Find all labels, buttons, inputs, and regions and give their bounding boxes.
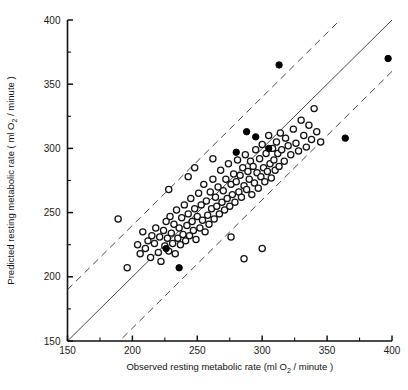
data-point-open [157,234,163,240]
y-tick-label: 250 [44,207,61,218]
data-point-open [229,192,235,198]
data-point-open [244,186,250,192]
data-point-open [318,139,324,145]
data-point-filled [385,55,391,61]
data-point-open [281,158,287,164]
data-point-open [212,194,218,200]
data-point-open [180,231,186,237]
data-point-open [210,176,216,182]
x-tick-label: 200 [124,345,141,356]
data-point-open [192,165,198,171]
y-tick-label: 350 [44,79,61,90]
y-tick-label: 400 [44,15,61,26]
data-point-open [210,156,216,162]
data-point-open [295,148,301,154]
reference-line-upper-limit-of-agreement [68,20,341,290]
data-point-open [279,147,285,153]
data-point-open [268,175,274,181]
data-point-open [257,156,263,162]
data-point-open [311,106,317,112]
y-tick-label: 200 [44,271,61,282]
data-point-open [167,213,173,219]
data-point-open [192,206,198,212]
data-point-open [249,192,255,198]
reference-lines-group [68,20,393,341]
data-point-open [290,126,296,132]
x-tick-label: 150 [59,345,76,356]
data-point-open [233,179,239,185]
data-point-filled [243,129,249,135]
data-point-filled [276,62,282,68]
data-point-open [176,225,182,231]
data-point-open [199,217,205,223]
data-point-open [288,152,294,158]
data-point-open [201,181,207,187]
data-point-open [253,147,259,153]
data-point-open [266,132,272,138]
data-point-open [205,212,211,218]
data-point-open [262,179,268,185]
x-tick-label: 400 [384,345,401,356]
data-point-open [207,189,213,195]
data-point-open [255,185,261,191]
y-tick-label: 150 [44,336,61,347]
tick-labels-group: 150200250300350400150200250300350400 [44,15,401,356]
data-point-open [185,211,191,217]
data-point-open [223,176,229,182]
data-point-open [149,233,155,239]
data-point-open [151,240,157,246]
data-point-open [264,168,270,174]
data-point-open [241,256,247,262]
data-point-open [203,198,209,204]
y-axis-title: Predicted resting metabolic rate ( ml O2… [5,76,18,284]
data-point-open [220,188,226,194]
data-point-open [308,136,314,142]
x-tick-label: 350 [319,345,336,356]
data-point-open [206,221,212,227]
data-point-open [137,251,143,257]
data-point-open [190,227,196,233]
data-point-open [181,202,187,208]
data-point-open [172,251,178,257]
data-point-filled [265,145,271,151]
plot-canvas: 150200250300350400150200250300350400 Obs… [0,0,408,390]
data-point-open [173,207,179,213]
data-point-open [273,139,279,145]
data-point-filled [342,135,348,141]
data-point-open [185,174,191,180]
data-point-open [160,227,166,233]
data-point-open [170,240,176,246]
data-point-open [237,172,243,178]
data-point-open [282,135,288,141]
data-point-open [234,157,240,163]
x-axis-title: Observed resting metabolic rate (ml O2 /… [126,361,333,374]
data-point-open [158,258,164,264]
data-point-open [277,130,283,136]
data-point-open [218,167,224,173]
data-point-open [285,143,291,149]
data-point-open [259,245,265,251]
data-point-open [179,215,185,221]
data-point-open [293,140,299,146]
data-point-open [196,190,202,196]
data-point-open [168,230,174,236]
data-point-open [153,225,159,231]
data-point-open [202,229,208,235]
data-point-open [276,163,282,169]
data-point-open [193,236,199,242]
reference-line-lower-limit-of-agreement [119,71,392,341]
data-point-open [188,195,194,201]
data-point-open [232,199,238,205]
data-point-open [147,254,153,260]
data-point-open [271,157,277,163]
data-point-filled [163,245,169,251]
data-points-group [115,55,391,271]
data-point-open [259,141,265,147]
data-point-open [124,265,130,271]
data-point-filled [253,134,259,140]
data-point-open [303,144,309,150]
data-point-filled [176,265,182,271]
data-point-open [238,194,244,200]
data-point-open [242,152,248,158]
x-tick-label: 300 [254,345,271,356]
